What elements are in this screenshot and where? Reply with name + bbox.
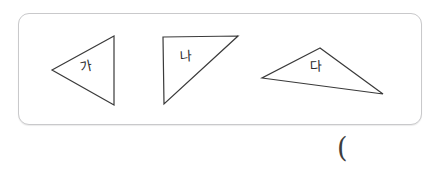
shape-panel [18,13,422,125]
triangle-da-label: 다 [310,60,322,73]
open-parenthesis-answer-blank: ( [337,134,348,161]
figure-root: 가 나 다 ( [0,0,439,175]
triangle-na-label: 나 [180,50,193,64]
triangle-ga-label: 가 [79,59,93,74]
